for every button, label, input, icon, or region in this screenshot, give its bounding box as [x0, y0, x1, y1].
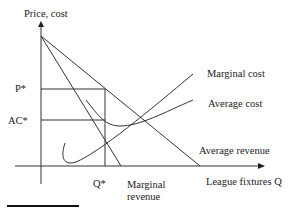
- p-star-label: P*: [15, 83, 26, 95]
- ac-star-label: AC*: [8, 115, 28, 127]
- x-axis-label: League fixtures Q: [206, 176, 282, 188]
- average-revenue-line: [41, 36, 200, 166]
- marginal-revenue-line: [41, 36, 121, 166]
- marginal-revenue-label-2: revenue: [127, 191, 160, 203]
- marginal-revenue-label-1: Marginal: [127, 179, 165, 191]
- y-axis-label: Price, cost: [24, 8, 68, 20]
- average-cost-label: Average cost: [208, 98, 262, 110]
- y-axis-arrow-icon: [38, 21, 44, 27]
- x-axis-arrow-icon: [258, 163, 265, 169]
- average-cost-curve: [86, 100, 193, 126]
- average-revenue-label: Average revenue: [199, 145, 270, 157]
- caption-rule: [7, 205, 79, 207]
- marginal-cost-label: Marginal cost: [207, 68, 265, 80]
- marginal-cost-curve: [63, 74, 193, 163]
- q-star-label: Q*: [93, 178, 106, 190]
